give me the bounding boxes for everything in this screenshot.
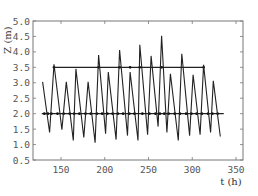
y-axis: 0.51.01.52.02.53.03.54.04.55.0: [13, 16, 243, 166]
y-tick-label: 1.0: [13, 139, 30, 150]
chart: 0.51.01.52.02.53.03.54.04.55.0 150200250…: [0, 0, 258, 196]
y-tick-label: 3.5: [13, 62, 30, 73]
x-tick-label: 250: [140, 164, 157, 175]
y-axis-label: Z (m): [2, 26, 13, 54]
reference-marker: [78, 112, 81, 115]
y-tick-label: 3.0: [13, 77, 30, 88]
x-tick-label: 150: [52, 164, 69, 175]
x-tick-label: 200: [96, 164, 113, 175]
y-tick-label: 1.5: [13, 124, 30, 135]
reference-marker: [56, 112, 59, 115]
x-axis-label: t (h): [220, 176, 242, 187]
y-tick-label: 5.0: [13, 16, 30, 27]
water-level-line: [43, 36, 221, 143]
reference-marker: [101, 112, 104, 115]
x-tick-label: 350: [227, 164, 244, 175]
y-tick-label: 0.5: [13, 155, 30, 166]
reference-marker: [163, 112, 166, 115]
reference-marker: [141, 112, 144, 115]
y-tick-label: 2.5: [13, 93, 30, 104]
y-tick-label: 4.0: [13, 46, 30, 57]
x-tick-label: 300: [184, 164, 201, 175]
y-tick-label: 4.5: [13, 31, 30, 42]
reference-marker: [129, 66, 132, 69]
data-series: [43, 36, 221, 143]
reference-marker: [122, 112, 125, 115]
y-tick-label: 2.0: [13, 108, 30, 119]
reference-marker: [43, 112, 46, 115]
